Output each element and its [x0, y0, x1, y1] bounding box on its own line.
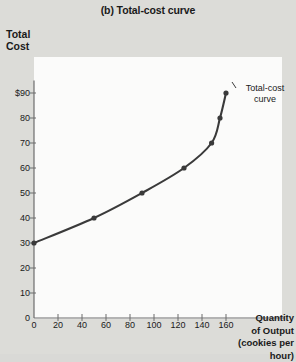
data-point [31, 240, 36, 245]
curve-annotation: Total-cost curve [236, 83, 294, 105]
curve-annotation-line1: Total-cost [236, 83, 294, 94]
data-point [91, 215, 96, 220]
data-point [139, 190, 144, 195]
curve-annotation-line2: curve [236, 94, 294, 105]
x-axis-label-line3: (cookies per hour) [228, 337, 294, 362]
data-point [209, 140, 214, 145]
data-point [217, 115, 222, 120]
data-point [181, 165, 186, 170]
x-axis-label: Quantity of Output (cookies per hour) [228, 312, 294, 362]
data-point [223, 90, 228, 95]
total-cost-curve [34, 93, 226, 243]
x-axis-label-line2: of Output [228, 325, 294, 338]
x-axis-label-line1: Quantity [228, 312, 294, 325]
